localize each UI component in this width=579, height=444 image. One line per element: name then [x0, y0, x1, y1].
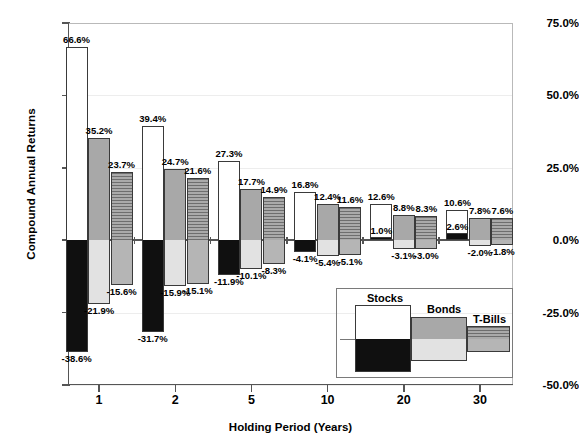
value-label-min: -15.6%: [99, 286, 145, 297]
value-label-max: 66.6%: [54, 34, 100, 45]
x-axis-tick: [327, 385, 329, 392]
legend-swatch-bonds-min: [411, 339, 467, 361]
bar-stocks-max: [218, 161, 240, 240]
bar-tbills-max: [187, 178, 209, 241]
zero-line-separator: [362, 237, 364, 244]
value-label-min: -3.0%: [403, 250, 449, 261]
bar-tbills-max: [491, 218, 513, 240]
zero-line-separator: [286, 237, 288, 244]
legend-swatch-tbills-min: [467, 339, 510, 352]
value-label-max: 39.4%: [130, 113, 176, 124]
value-label-max: 21.6%: [175, 165, 221, 176]
value-label-max: 12.6%: [358, 191, 404, 202]
x-axis-tick: [175, 385, 177, 392]
value-label-max: 27.3%: [206, 148, 252, 159]
bar-bonds-min: [393, 240, 415, 249]
bar-tbills-min: [111, 240, 133, 285]
x-axis-tick-label: 5: [221, 393, 281, 407]
chart-container: Compound Annual Returns 75.0%50.0%25.0%0…: [0, 0, 579, 444]
value-label-max: 7.6%: [479, 205, 525, 216]
y-axis-tick-label: -50.0%: [521, 379, 579, 391]
x-axis-tick: [251, 385, 253, 392]
y-axis-tick-label: 25.0%: [521, 162, 579, 174]
value-label-min: 1.0%: [358, 225, 404, 236]
value-label-min: -5.1%: [327, 256, 373, 267]
x-axis-tick: [403, 385, 405, 392]
x-axis-tick-label: 1: [69, 393, 129, 407]
y-axis-tick-label: 50.0%: [521, 89, 579, 101]
bar-tbills-min: [415, 240, 437, 249]
value-label-min: -31.7%: [130, 333, 176, 344]
bar-stocks-max: [66, 47, 88, 240]
bar-stocks-min: [66, 240, 88, 352]
y-gridline: [68, 385, 513, 386]
bar-stocks-min: [142, 240, 164, 332]
value-label-min: 2.6%: [434, 221, 480, 232]
bar-stocks-min: [446, 233, 468, 241]
value-label-max: 16.8%: [282, 179, 328, 190]
value-label-min: -21.9%: [76, 305, 122, 316]
bar-bonds-min: [469, 240, 491, 246]
x-axis-tick: [479, 385, 481, 392]
bar-stocks-min: [370, 237, 392, 240]
bar-stocks-max: [142, 126, 164, 240]
x-axis-tick-label: 30: [450, 393, 510, 407]
y-axis-tick-label: 0.0%: [521, 234, 579, 246]
zero-line-separator: [438, 237, 440, 244]
legend-swatch-stocks-max: [355, 305, 411, 339]
x-axis-title: Holding Period (Years): [68, 421, 513, 433]
value-label-min: -8.3%: [251, 265, 297, 276]
bar-tbills-max: [111, 172, 133, 241]
legend-label-stocks: Stocks: [367, 292, 403, 304]
x-axis-tick: [98, 385, 100, 392]
value-label-min: -38.6%: [54, 353, 100, 364]
bar-bonds-max: [317, 204, 339, 240]
y-axis-tick-label: 75.0%: [521, 17, 579, 29]
x-axis-tick-label: 10: [298, 393, 358, 407]
value-label-max: 23.7%: [99, 159, 145, 170]
bar-bonds-max: [88, 138, 110, 240]
legend-label-tbills: T-Bills: [473, 313, 506, 325]
bar-bonds-max: [164, 169, 186, 241]
legend-swatch-tbills-max: [467, 326, 510, 339]
value-label-min: -1.8%: [479, 246, 525, 257]
legend-swatch-bonds-max: [411, 317, 467, 339]
x-axis-tick-label: 2: [145, 393, 205, 407]
legend-label-bonds: Bonds: [427, 303, 461, 315]
bar-bonds-min: [164, 240, 186, 286]
bar-bonds-max: [240, 189, 262, 240]
bar-tbills-max: [263, 197, 285, 240]
legend-swatch-stocks-min: [355, 339, 411, 372]
x-axis-tick-label: 20: [374, 393, 434, 407]
value-label-max: 35.2%: [76, 125, 122, 136]
bar-tbills-min: [491, 240, 513, 245]
bar-tbills-min: [339, 240, 361, 255]
zero-line-separator: [210, 237, 212, 244]
y-axis-title: Compound Annual Returns: [25, 69, 37, 299]
y-axis-tick-label: -25.0%: [521, 307, 579, 319]
zero-line-separator: [134, 237, 136, 244]
bar-stocks-min: [294, 240, 316, 252]
